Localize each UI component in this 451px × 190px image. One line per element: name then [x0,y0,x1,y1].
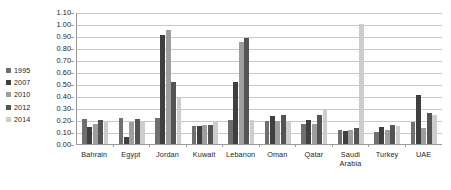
x-axis-tick-mark [113,144,114,147]
bar [87,127,92,144]
bar-group [333,13,370,144]
y-axis-tick-mark [71,109,74,110]
bar [208,125,213,144]
bar [228,120,233,144]
y-axis-tick-label: 0.60 [57,69,71,77]
bar [312,124,317,144]
bar [135,119,140,144]
legend-label: 2012 [14,103,30,112]
bar [213,121,218,144]
bar [202,125,207,144]
legend-label: 2014 [14,115,30,124]
bar-chart: 19952007201020122014 1.101.000.900.800.7… [0,0,451,190]
y-axis-tick-mark [71,97,74,98]
bar [379,127,384,144]
x-axis-tick-mark [332,144,333,147]
x-axis-tick-label: Qatar [296,150,333,168]
bar [354,128,359,144]
bar-group [77,13,114,144]
x-axis-tick-label: Saudi Arabia [332,150,369,168]
bar [93,124,98,144]
legend-label: 2007 [14,78,30,87]
bar-group [296,13,333,144]
x-axis-tick-mark [295,144,296,147]
y-axis-tick-label: 1.00 [57,21,71,29]
y-axis-tick-label: 1.10 [57,9,71,17]
y-axis-tick-label: 0.70 [57,57,71,65]
bar [270,116,275,144]
bar-group [406,13,443,144]
bar [82,119,87,144]
x-axis-tick-mark [149,144,150,147]
x-axis: BahrainEgyptJordanKuwaitLebanonOmanQatar… [76,150,442,168]
x-axis-tick-label: Bahrain [76,150,113,168]
bar [275,121,280,144]
y-axis-tick-label: 0.00 [57,141,71,149]
x-axis-tick-label: Turkey [369,150,406,168]
legend-swatch-icon [6,80,11,85]
y-axis-tick-label: 0.50 [57,81,71,89]
bar [306,120,311,144]
bar [171,82,176,144]
bar [197,126,202,144]
bar [119,118,124,144]
bar [390,125,395,144]
legend-swatch-icon [6,105,11,110]
bar [374,132,379,144]
x-axis-tick-label: Oman [259,150,296,168]
legend-swatch-icon [6,117,11,122]
bar-group [187,13,224,144]
x-axis-tick-mark [405,144,406,147]
bar [104,121,109,144]
y-axis-tick-mark [71,37,74,38]
y-axis-tick-mark [71,73,74,74]
x-axis-tick-label: UAE [405,150,442,168]
bar [286,122,291,144]
bar [98,120,103,144]
bar [396,126,401,144]
bar [411,122,416,144]
bar [177,98,182,144]
bar [166,30,171,144]
x-axis-tick-label: Jordan [149,150,186,168]
y-axis-tick-mark [71,145,74,146]
bar [281,115,286,144]
bar [233,82,238,144]
y-axis-tick-mark [71,61,74,62]
legend-label: 2010 [14,90,30,99]
bar [160,35,165,144]
y-axis-tick-mark [71,13,74,14]
legend-swatch-icon [6,92,11,97]
bar [250,120,255,144]
y-axis-tick-label: 0.10 [57,129,71,137]
bar-groups [77,13,442,144]
y-axis-tick-label: 0.90 [57,33,71,41]
bar [385,130,390,144]
bar [427,113,432,144]
bar-group [223,13,260,144]
plot-area [76,13,442,145]
y-axis-tick-mark [71,121,74,122]
legend-swatch-icon [6,68,11,73]
bar [323,110,328,144]
x-axis-tick-label: Egypt [113,150,150,168]
x-axis-tick-mark [368,144,369,147]
bar [317,115,322,144]
x-axis-tick-mark [222,144,223,147]
y-axis-tick-mark [71,85,74,86]
bar [359,24,364,144]
y-axis-tick-mark [71,49,74,50]
bar [421,128,426,144]
y-axis: 1.101.000.900.800.700.600.500.400.300.20… [44,13,74,145]
bar [140,121,145,144]
legend-label: 1995 [14,66,30,75]
bar [343,131,348,144]
bar [129,122,134,144]
bar [192,126,197,144]
x-axis-tick-label: Lebanon [222,150,259,168]
y-axis-tick-label: 0.80 [57,45,71,53]
bar [348,130,353,144]
bar [338,130,343,144]
bar-group [369,13,406,144]
bar-group [260,13,297,144]
